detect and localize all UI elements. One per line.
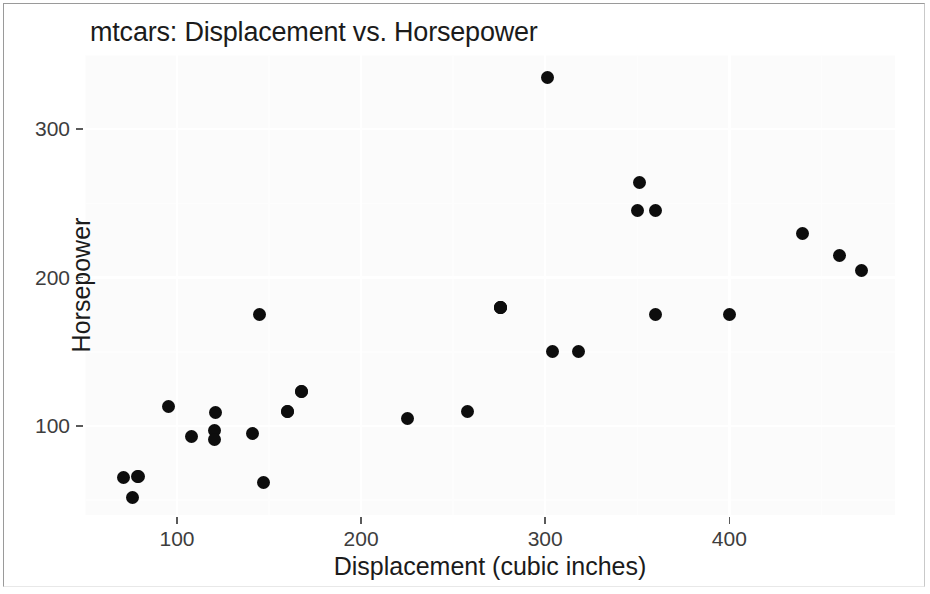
scatter-point	[117, 471, 130, 484]
scatter-point	[295, 385, 308, 398]
scatter-point	[253, 308, 266, 321]
page-title: mtcars: Displacement vs. Horsepower	[90, 17, 538, 48]
scatter-point	[572, 345, 585, 358]
scatter-point	[855, 264, 868, 277]
x-axis-tick-mark	[544, 517, 546, 524]
scatter-point	[246, 427, 259, 440]
gridline-minor-horizontal	[85, 55, 895, 56]
gridline-minor-vertical	[268, 55, 270, 515]
gridline-minor-vertical	[452, 55, 454, 515]
y-axis-tick-label: 200	[0, 266, 70, 290]
gridline-major-vertical	[176, 55, 179, 515]
y-axis-tick-label: 100	[0, 414, 70, 438]
gridline-major-horizontal	[85, 425, 895, 428]
scatter-point	[833, 249, 846, 262]
scatter-point	[126, 491, 139, 504]
y-axis-tick-label: 300	[0, 117, 70, 141]
x-axis-tick-mark	[729, 517, 731, 524]
y-axis-tick-mark	[76, 425, 83, 427]
scatter-point	[633, 176, 646, 189]
gridline-major-vertical	[360, 55, 363, 515]
gridline-minor-horizontal	[85, 351, 895, 353]
x-axis-tick-label: 400	[712, 527, 747, 551]
gridline-minor-horizontal	[85, 203, 895, 205]
gridline-minor-vertical	[821, 55, 823, 515]
scatter-point	[162, 400, 175, 413]
x-axis-tick-mark	[360, 517, 362, 524]
gridline-major-horizontal	[85, 128, 895, 131]
gridline-major-vertical	[544, 55, 547, 515]
scatter-point	[132, 470, 145, 483]
scatter-point	[185, 430, 198, 443]
scatter-point	[546, 345, 559, 358]
scatter-point	[281, 405, 294, 418]
x-axis-title: Displacement (cubic inches)	[334, 552, 647, 581]
x-axis-tick-mark	[176, 517, 178, 524]
plot-panel	[85, 55, 895, 515]
scatter-point	[209, 406, 222, 419]
scatter-point	[401, 412, 414, 425]
scatter-point	[649, 308, 662, 321]
x-axis-tick-label: 100	[160, 527, 195, 551]
scatter-point	[257, 476, 270, 489]
scatter-point	[723, 308, 736, 321]
gridline-minor-vertical	[637, 55, 639, 515]
y-axis-title: Horsepower	[67, 218, 96, 353]
scatter-point	[461, 405, 474, 418]
x-axis-tick-label: 200	[344, 527, 379, 551]
scatter-point	[796, 227, 809, 240]
scatter-point	[494, 301, 507, 314]
chart-page: mtcars: Displacement vs. Horsepower 1002…	[0, 0, 930, 594]
y-axis-tick-mark	[76, 128, 83, 130]
scatter-point	[649, 204, 662, 217]
gridline-major-horizontal	[85, 276, 895, 279]
x-axis-tick-label: 300	[528, 527, 563, 551]
scatter-point	[208, 433, 221, 446]
gridline-minor-horizontal	[85, 499, 895, 501]
scatter-point	[631, 204, 644, 217]
scatter-point	[541, 71, 554, 84]
gridline-major-vertical	[728, 55, 731, 515]
